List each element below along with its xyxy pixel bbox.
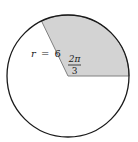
- angle-numerator: 2π: [68, 54, 82, 64]
- radius-label: r = 6: [31, 48, 61, 59]
- shaded-sector: [42, 15, 130, 76]
- angle-denominator: 3: [72, 66, 78, 76]
- radius-var: r: [31, 48, 37, 59]
- radius-value: 6: [55, 48, 61, 59]
- circle-sector-diagram: r = 6 2π 3: [0, 0, 138, 142]
- radius-eq: =: [41, 48, 49, 59]
